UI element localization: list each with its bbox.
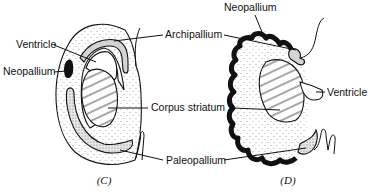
leader-neopallium-d — [255, 15, 262, 32]
stalk-top-d — [300, 18, 324, 58]
caption-c: (C) — [97, 174, 112, 187]
brain-section-diagram: (C) (D) Ventricle Neopallium Archipall — [0, 0, 376, 194]
label-archipallium: Archipallium — [165, 28, 222, 40]
label-corpus-striatum: Corpus striatum — [151, 101, 225, 113]
label-neopallium-c: Neopallium — [3, 65, 56, 77]
caption-d: (D) — [280, 174, 296, 187]
panel-d: (D) — [229, 18, 335, 187]
label-ventricle-d: Ventricle — [327, 86, 367, 98]
label-neopallium-d: Neopallium — [224, 1, 277, 13]
label-ventricle-c: Ventricle — [16, 38, 56, 50]
panel-c: (C) — [56, 24, 144, 187]
label-paleopallium: Paleopallium — [166, 154, 226, 166]
